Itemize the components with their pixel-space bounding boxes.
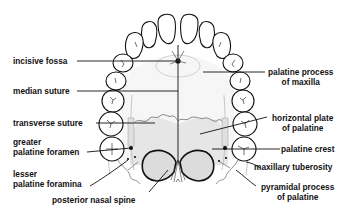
label-palatine-process-of-maxilla: palatine process of maxilla [268, 67, 333, 87]
label-median-suture: median suture [13, 86, 70, 96]
label-palatine-crest: palatine crest [281, 144, 335, 154]
label-horizontal-plate-of-palatine: horizontal plate of palatine [272, 113, 333, 133]
label-posterior-nasal-spine: posterior nasal spine [52, 195, 135, 205]
label-greater-palatine-foramen: greater palatine foramen [13, 137, 79, 157]
label-incisive-fossa: incisive fossa [13, 56, 67, 66]
label-maxillary-tuberosity: maxillary tuberosity [254, 162, 332, 172]
label-lesser-palatine-foramina: lesser palatine foramina [13, 169, 82, 189]
label-transverse-suture: transverse suture [13, 118, 83, 128]
label-pyramidal-process-of-palatine: pyramidal process of palatine [261, 182, 334, 202]
